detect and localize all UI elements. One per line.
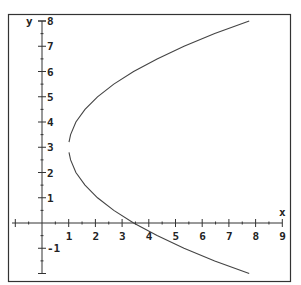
y-tick-label: 2 — [47, 167, 54, 180]
y-tick-label: 7 — [47, 40, 54, 53]
y-tick-label: 8 — [47, 15, 54, 28]
y-axis-label: y — [26, 15, 33, 28]
y-tick-label: 6 — [47, 66, 54, 79]
x-tick-label: 5 — [173, 230, 180, 243]
parabola-chart: 123456789-112345678 x y — [0, 0, 301, 285]
x-tick-label: 3 — [119, 230, 126, 243]
y-tick-label: 1 — [47, 192, 54, 205]
tick-labels: 123456789-112345678 — [47, 15, 286, 255]
x-tick-label: 7 — [226, 230, 233, 243]
x-tick-label: 9 — [279, 230, 286, 243]
parabola-branch — [69, 152, 249, 273]
x-tick-label: 1 — [66, 230, 73, 243]
x-tick-label: 6 — [199, 230, 206, 243]
y-tick-label: 4 — [47, 116, 54, 129]
x-tick-label: 2 — [92, 230, 99, 243]
x-axis-label: x — [279, 206, 286, 219]
y-tick-label: 5 — [47, 91, 54, 104]
y-tick-label: -1 — [47, 242, 61, 255]
y-tick-label: 3 — [47, 141, 54, 154]
parabola-branch — [69, 21, 249, 142]
x-tick-label: 8 — [253, 230, 260, 243]
